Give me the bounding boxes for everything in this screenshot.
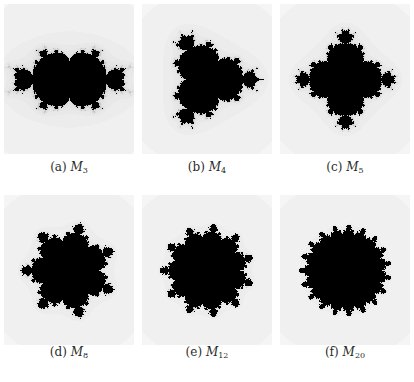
caption-label: (c) <box>326 160 342 174</box>
caption-subscript: 20 <box>355 351 365 360</box>
panel-b: (b) M4 <box>138 0 276 191</box>
multibrot-image <box>280 195 410 345</box>
caption-subscript: 12 <box>218 351 228 360</box>
panel-a: (a) M3 <box>0 0 138 191</box>
caption-subscript: 8 <box>83 351 88 360</box>
caption-symbol: M <box>343 345 355 359</box>
caption-label: (f) <box>325 345 339 359</box>
caption-subscript: 5 <box>359 166 364 175</box>
caption: (a) M3 <box>0 160 138 175</box>
caption: (d) M8 <box>0 345 138 360</box>
caption-symbol: M <box>346 160 358 174</box>
caption: (c) M5 <box>276 160 414 175</box>
panel-d: (d) M8 <box>0 191 138 382</box>
multibrot-image <box>280 4 410 154</box>
caption: (f) M20 <box>276 345 414 360</box>
caption-symbol: M <box>71 345 83 359</box>
caption-label: (d) <box>50 345 67 359</box>
caption: (e) M12 <box>138 345 276 360</box>
multibrot-image <box>142 4 272 154</box>
panel-c: (c) M5 <box>276 0 414 191</box>
multibrot-image <box>4 195 134 345</box>
caption-subscript: 3 <box>83 166 88 175</box>
caption-label: (b) <box>188 160 205 174</box>
panel-e: (e) M12 <box>138 191 276 382</box>
panel-f: (f) M20 <box>276 191 414 382</box>
caption-subscript: 4 <box>221 166 226 175</box>
caption: (b) M4 <box>138 160 276 175</box>
caption-symbol: M <box>206 345 218 359</box>
caption-symbol: M <box>209 160 221 174</box>
caption-label: (e) <box>186 345 202 359</box>
multibrot-image <box>4 4 134 154</box>
caption-label: (a) <box>50 160 67 174</box>
multibrot-image <box>142 195 272 345</box>
caption-symbol: M <box>70 160 82 174</box>
